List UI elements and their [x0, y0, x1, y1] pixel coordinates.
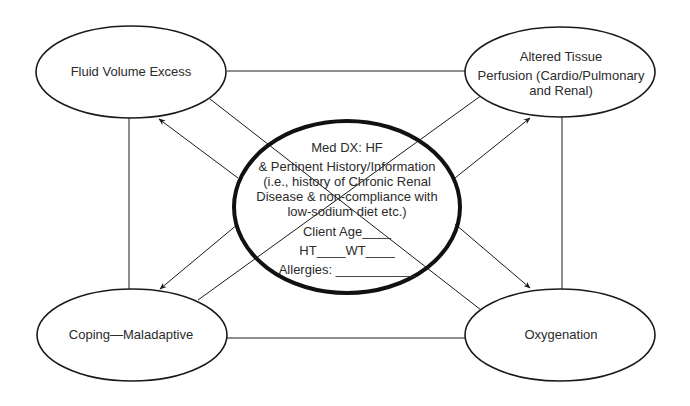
center-content: Med DX: HF & Pertinent History/Informati… [247, 140, 447, 277]
label-fluid-volume-excess: Fluid Volume Excess [36, 64, 226, 79]
label-oxygenation: Oxygenation [466, 327, 656, 342]
center-history-line: & Pertinent History/Information [247, 159, 447, 174]
label-coping-maladaptive: Coping—Maladaptive [36, 327, 226, 342]
center-history-line: Disease & non-compliance with [247, 189, 447, 204]
center-title: Med DX: HF [247, 140, 447, 155]
arrow-to-tissue-perfusion [455, 118, 530, 178]
label-altered-tissue-perfusion: Altered Tissue Perfusion (Cardio/Pulmona… [466, 47, 656, 100]
label-line: Altered Tissue [466, 47, 656, 66]
arrow-to-fluid-volume [159, 119, 238, 178]
height-weight-field: HT____WT____ [247, 243, 447, 258]
center-history-line: low-sodium diet etc.) [247, 204, 447, 219]
arrow-to-oxygenation [455, 224, 530, 288]
allergies-field: Allergies: ___________ [247, 262, 447, 277]
client-age-field: Client Age____ [247, 224, 447, 239]
center-history-line: (i.e., history of Chronic Renal [247, 174, 447, 189]
